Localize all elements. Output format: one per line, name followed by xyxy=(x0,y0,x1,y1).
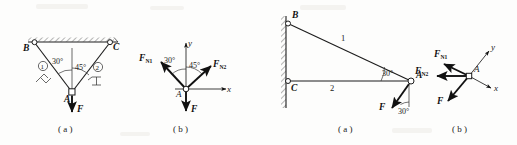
label-origin-A-right: A xyxy=(473,64,480,74)
angle-arc-30 xyxy=(59,70,73,74)
joint-C-marker xyxy=(108,40,113,45)
label-force-FN2-right: F N2 xyxy=(414,66,429,77)
label-joint-B-right: B xyxy=(291,10,298,20)
angle-arc-30-load xyxy=(401,102,410,105)
caption-right-a: ( a ) xyxy=(338,124,353,134)
label-angle-45: 45° xyxy=(75,63,86,72)
label-force-FN2-sub: N2 xyxy=(220,64,227,70)
label-joint-A: A xyxy=(63,94,70,104)
force-FN1-arrow-right xyxy=(444,64,469,76)
label-joint-C-right: C xyxy=(291,83,298,93)
joint-B-marker-right xyxy=(286,21,291,26)
label-axis-x: x xyxy=(226,84,231,94)
force-F-arrow-right xyxy=(448,76,469,101)
label-axis-x-right: x xyxy=(493,83,498,93)
joint-A-marker-right xyxy=(408,78,414,84)
label-angle-30-fbd: 30° xyxy=(164,56,175,65)
section-cut-mark-left xyxy=(36,74,51,83)
joint-B-marker xyxy=(32,40,37,45)
figure-right-panel-a: B C A 1 2 30° 30° F ( a ) xyxy=(281,10,422,134)
member-one-badge-label: 1 xyxy=(40,63,44,71)
section-cut-mark-right xyxy=(88,77,101,85)
origin-A-marker xyxy=(183,86,189,92)
label-angle-45-fbd: 45° xyxy=(189,61,200,70)
label-force-FN1-sub: N1 xyxy=(146,58,153,64)
label-joint-B: B xyxy=(22,43,29,53)
label-load-F-right: F xyxy=(378,102,386,112)
force-FN1-arrow xyxy=(161,62,186,89)
origin-A-marker-right xyxy=(466,73,471,78)
wall-support-hatch xyxy=(281,16,286,108)
label-joint-C: C xyxy=(113,42,120,52)
label-angle-30-truss: 30° xyxy=(382,69,393,78)
caption-right-b: ( b ) xyxy=(452,124,467,134)
caption-left-a: ( a ) xyxy=(58,124,73,134)
label-load-F: F xyxy=(76,104,84,114)
label-angle-30-load: 30° xyxy=(398,107,409,116)
figure-right-panel-b: F N1 F N2 F A x y ( b ) xyxy=(414,42,498,134)
joint-C-marker-right xyxy=(286,79,291,84)
label-member-2: 2 xyxy=(330,83,334,93)
label-force-FN2-sub-right: N2 xyxy=(422,71,429,77)
label-force-FN1-right: F N1 xyxy=(433,49,448,60)
label-member-1: 1 xyxy=(341,33,345,43)
figure-left-panel-a: B C A 30° 45° F 1 2 ( a ) xyxy=(22,38,120,135)
x-axis-line-right xyxy=(469,76,491,88)
label-force-F-fbd: F xyxy=(190,104,198,114)
caption-left-b: ( b ) xyxy=(173,124,188,134)
label-force-FN1-sub-right: N1 xyxy=(441,54,448,60)
angle-arc-30-fbd xyxy=(172,69,187,75)
label-origin-A: A xyxy=(175,89,182,99)
ceiling-support-hatch xyxy=(28,38,118,43)
label-axis-y-right: y xyxy=(490,42,495,52)
engineering-figure-canvas: B C A 30° 45° F 1 2 ( a ) xyxy=(0,0,517,145)
member-two-badge: 2 xyxy=(93,62,102,71)
label-force-FN1: F N1 xyxy=(138,53,153,64)
label-angle-30: 30° xyxy=(52,57,63,66)
figure-left-panel-b: F N1 F N2 F 30° 45° A x y ( b ) xyxy=(138,38,231,134)
label-force-F-right: F xyxy=(436,96,444,106)
member-two-badge-label: 2 xyxy=(95,64,99,72)
member-one-badge: 1 xyxy=(38,61,47,70)
figure-sheet: B C A 30° 45° F 1 2 ( a ) xyxy=(0,0,517,145)
label-force-FN2: F N2 xyxy=(212,59,227,70)
label-axis-y: y xyxy=(187,38,192,48)
